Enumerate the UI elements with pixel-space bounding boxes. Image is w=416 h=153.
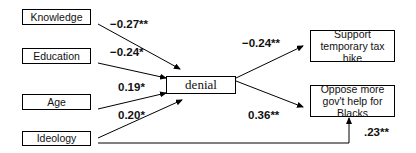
age-to-denial-arrow [98, 93, 166, 109]
coef-knowledge: −0.27** [110, 18, 148, 30]
mediator-label: denial [185, 78, 217, 93]
education-to-denial-arrow [98, 63, 166, 78]
predictor-education-box: Education [22, 48, 91, 64]
coef-education: −0.24* [110, 46, 144, 58]
predictor-label: Age [47, 96, 66, 108]
coef-taxhike: −0.24** [242, 37, 280, 49]
predictor-label: Ideology [37, 132, 77, 144]
predictor-ideology-box: Ideology [22, 131, 91, 146]
denial-to-taxhike-arrow [236, 46, 303, 78]
coef-age: 0.19* [118, 81, 145, 93]
denial-to-blacks-arrow [236, 81, 303, 107]
outcome-label: Support temporary tax hike [311, 28, 394, 64]
predictor-label: Knowledge [31, 11, 83, 23]
coef-ideology: 0.20* [118, 109, 145, 121]
predictor-age-box: Age [22, 94, 91, 110]
outcome-blacks-box: Oppose more gov't help for Blacks [310, 85, 395, 117]
outcome-label: Oppose more gov't help for Blacks [311, 83, 394, 119]
ideology-to-blacks-arrow [98, 118, 349, 143]
predictor-knowledge-box: Knowledge [22, 9, 91, 25]
predictor-label: Education [33, 50, 80, 62]
coef-ideology-direct: .23** [364, 126, 389, 138]
outcome-taxhike-box: Support temporary tax hike [310, 30, 395, 62]
coef-blacks: 0.36** [248, 109, 279, 121]
mediator-denial-box: denial [166, 76, 236, 94]
